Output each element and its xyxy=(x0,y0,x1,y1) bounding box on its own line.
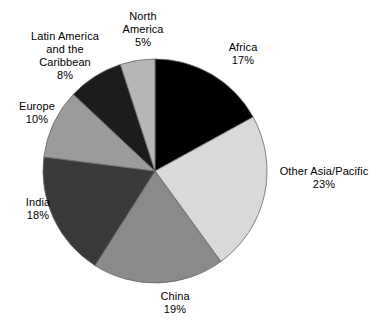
pie-label-other-asia-pacific-name: Other Asia/Pacific xyxy=(272,165,376,178)
pie-label-latin-america-line2: and the xyxy=(24,43,106,56)
pie-label-africa-name: Africa xyxy=(212,41,274,54)
pie-label-china: China 19% xyxy=(140,290,210,316)
pie-label-china-name: China xyxy=(140,290,210,303)
pie-label-north-america-line1: North xyxy=(107,10,179,23)
pie-slice-group xyxy=(43,59,267,283)
pie-label-india: India 18% xyxy=(8,196,68,222)
pie-label-north-america-line2: America xyxy=(107,23,179,36)
pie-label-north-america: North America 5% xyxy=(107,10,179,49)
pie-label-latin-america-value: 8% xyxy=(24,69,106,82)
pie-chart-figure: North America 5% Latin America and the C… xyxy=(0,0,379,331)
pie-label-other-asia-pacific-value: 23% xyxy=(272,178,376,191)
pie-label-other-asia-pacific: Other Asia/Pacific 23% xyxy=(272,165,376,191)
pie-label-latin-america: Latin America and the Caribbean 8% xyxy=(24,30,106,82)
pie-label-europe: Europe 10% xyxy=(6,100,68,126)
pie-label-latin-america-line1: Latin America xyxy=(24,30,106,43)
pie-label-africa: Africa 17% xyxy=(212,41,274,67)
pie-label-india-value: 18% xyxy=(8,209,68,222)
pie-label-north-america-value: 5% xyxy=(107,36,179,49)
pie-label-africa-value: 17% xyxy=(212,54,274,67)
pie-label-europe-value: 10% xyxy=(6,113,68,126)
pie-label-europe-name: Europe xyxy=(6,100,68,113)
pie-label-latin-america-line3: Caribbean xyxy=(24,56,106,69)
pie-label-china-value: 19% xyxy=(140,303,210,316)
pie-label-india-name: India xyxy=(8,196,68,209)
